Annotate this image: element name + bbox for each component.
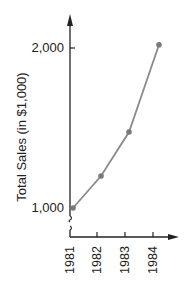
x-tick-label-1981: 1981: [63, 246, 77, 274]
data-point-1982: [98, 173, 104, 179]
data-point-1983: [126, 129, 132, 135]
y-axis-arrow-icon: [67, 14, 73, 26]
sales-line: [73, 45, 159, 208]
data-points: [70, 42, 162, 211]
y-tick-label-2000: 2,000: [14, 40, 64, 55]
axis-break-icon: [69, 216, 72, 222]
line-chart: Total Sales (in $1,000) 2,000 1,000 1981…: [0, 0, 186, 284]
x-tick-label-1984: 1984: [146, 246, 160, 274]
y-tick-label-1000: 1,000: [14, 200, 64, 215]
axis-break-icon: [70, 226, 72, 230]
x-tick-label-1982: 1982: [90, 246, 104, 274]
data-point-1984: [156, 42, 162, 48]
y-axis-title: Total Sales (in $1,000): [14, 72, 29, 201]
data-point-1981: [70, 205, 76, 211]
x-tick-label-1983: 1983: [118, 246, 132, 274]
x-axis-arrow-icon: [168, 234, 179, 240]
